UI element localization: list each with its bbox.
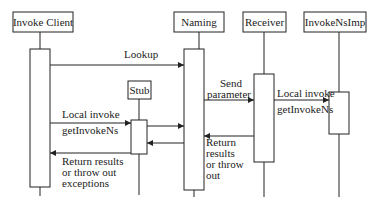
- svg-text:Local invoke: Local invoke: [277, 87, 335, 99]
- activation-bar: [131, 120, 147, 154]
- activation-bar: [184, 49, 204, 190]
- message-return-client: Return results or throw out exceptions: [50, 153, 131, 189]
- svg-text:parameter: parameter: [207, 88, 251, 100]
- message-lookup: Lookup: [50, 48, 184, 65]
- participant-stub: Stub: [128, 81, 151, 195]
- message-local-invoke-receiver: Local invoke getInvokeNs: [274, 87, 335, 115]
- message-local-invoke-client: Local invoke getInvokeNs: [50, 108, 131, 136]
- svg-text:getInvokeNs: getInvokeNs: [62, 124, 118, 136]
- message-send-parameter: Send parameter: [204, 77, 254, 100]
- svg-text:Local invoke: Local invoke: [62, 108, 120, 120]
- participant-label: InvokeNsImp: [305, 16, 366, 28]
- activation-bar: [30, 49, 50, 187]
- svg-text:Lookup: Lookup: [124, 48, 159, 60]
- participant-label: Stub: [129, 84, 150, 96]
- participant-label: Naming: [181, 16, 217, 28]
- message-return-receiver: Return results or throw out: [204, 136, 254, 181]
- sequence-diagram: Invoke Client Naming Receiver InvokeNsIm…: [0, 0, 379, 208]
- activation-bar: [254, 74, 274, 162]
- svg-text:out: out: [206, 169, 220, 181]
- svg-text:exceptions: exceptions: [62, 177, 109, 189]
- svg-text:getInvokeNs: getInvokeNs: [277, 103, 333, 115]
- participant-label: Invoke Client: [13, 16, 73, 28]
- participant-label: Receiver: [245, 16, 284, 28]
